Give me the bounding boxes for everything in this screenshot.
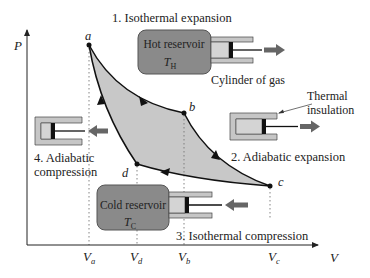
insulated-cylinder-left <box>35 117 108 145</box>
hot-cylinder-wall-bottom <box>211 58 253 63</box>
hot-cylinder-gas <box>211 42 229 58</box>
cylinder-of-gas-label: Cylinder of gas <box>211 73 285 87</box>
right-arrow-right-icon <box>300 121 320 133</box>
cold-reservoir-label: Cold reservoir <box>100 199 166 211</box>
left-arrow-left-icon <box>88 125 108 137</box>
step1-label: 1. Isothermal expansion <box>112 11 233 25</box>
cold-cylinder-wall-bottom <box>169 213 212 218</box>
tick-vc: Vc <box>268 249 280 266</box>
cold-cylinder-gas <box>169 197 185 213</box>
left-cylinder-gas <box>41 123 51 139</box>
point-b <box>182 111 187 116</box>
insulation-label-line1: Thermal <box>307 89 348 103</box>
step3-label: 3. Isothermal compression <box>176 229 309 243</box>
point-a <box>87 43 92 48</box>
tick-vd: Vd <box>130 249 143 266</box>
point-c <box>268 184 273 189</box>
tick-va: Va <box>83 249 95 266</box>
step4-label-line2: compression <box>34 165 98 179</box>
hot-reservoir-group <box>138 30 285 74</box>
y-axis-label: P <box>13 38 22 53</box>
carnot-diagram: 1. Isothermal expansion Hot reservoir TH… <box>0 0 370 278</box>
step4-label-line1: 4. Adiabatic <box>34 151 95 165</box>
point-d <box>135 162 140 167</box>
tick-vb: Vb <box>178 249 190 266</box>
right-cylinder-gas <box>236 119 262 134</box>
hot-cylinder-piston <box>229 42 233 58</box>
hot-arrow-right-icon <box>264 44 285 56</box>
point-b-label: b <box>189 100 195 114</box>
point-d-label: d <box>122 166 129 180</box>
cold-cylinder-piston <box>185 197 189 213</box>
step2-label: 2. Adiabatic expansion <box>231 150 346 164</box>
insulation-label-line2: insulation <box>307 103 354 117</box>
left-cylinder-piston <box>51 123 55 139</box>
x-axis-label: V <box>330 250 340 265</box>
cold-arrow-left-icon <box>225 199 248 211</box>
hot-reservoir-label: Hot reservoir <box>144 38 205 50</box>
point-c-label: c <box>278 175 284 189</box>
point-a-label: a <box>85 29 91 43</box>
cold-cylinder-wall-top <box>169 192 212 197</box>
hot-cylinder-wall-top <box>211 37 253 42</box>
right-cylinder-piston <box>262 119 266 134</box>
